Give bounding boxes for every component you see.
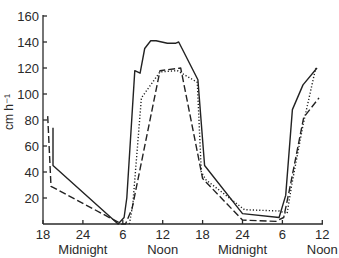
line-chart: 20406080100120140160 18246121824612 Midn…	[0, 0, 339, 258]
x-ticks: 18246121824612	[36, 220, 330, 242]
series-dashed	[48, 68, 319, 224]
series-solid	[53, 41, 317, 224]
x-tick-label: 18	[195, 227, 209, 242]
series-group	[48, 41, 319, 224]
x-tick-label: 18	[36, 227, 50, 242]
x-tick-label: 6	[279, 227, 286, 242]
x-sublabel: Noon	[147, 242, 178, 257]
x-tick-label: 12	[155, 227, 169, 242]
x-sublabel: Midnight	[58, 242, 108, 257]
y-tick-label: 140	[17, 35, 39, 50]
y-tick-label: 20	[25, 191, 39, 206]
x-tick-label: 6	[119, 227, 126, 242]
axes	[43, 15, 323, 224]
y-tick-label: 80	[25, 113, 39, 128]
x-tick-label: 12	[315, 227, 329, 242]
y-tick-label: 60	[25, 139, 39, 154]
y-axis-title: cm h⁻¹	[2, 94, 16, 130]
y-tick-label: 40	[25, 165, 39, 180]
x-sublabel: Noon	[307, 242, 338, 257]
y-tick-label: 160	[17, 9, 39, 24]
y-tick-label: 100	[17, 87, 39, 102]
x-tick-label: 24	[235, 227, 249, 242]
y-tick-label: 120	[17, 61, 39, 76]
x-tick-label: 24	[76, 227, 90, 242]
x-sublabels: MidnightNoonMidnightNoon	[58, 242, 338, 257]
x-sublabel: Midnight	[218, 242, 268, 257]
